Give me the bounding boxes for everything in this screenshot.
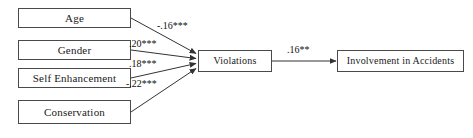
node-conservation-label: Conservation xyxy=(44,107,105,118)
node-gender[interactable]: Gender xyxy=(18,40,131,60)
node-violations[interactable]: Violations xyxy=(198,50,272,72)
edge-label-conservation-violations: -.22*** xyxy=(126,79,157,89)
edge-label-selfenhancement-violations: .18*** xyxy=(129,59,157,69)
edge-label-conservation-violations-text: -.22*** xyxy=(126,78,157,89)
node-gender-label: Gender xyxy=(58,45,92,56)
node-age-label: Age xyxy=(65,13,84,24)
edge-label-selfenhancement-violations-text: .18*** xyxy=(129,58,157,69)
node-self-enhancement[interactable]: Self Enhancement xyxy=(18,68,131,88)
edge-label-gender-violations-text: .20*** xyxy=(129,38,157,49)
edge-label-age-violations-text: -.16*** xyxy=(157,20,188,31)
node-involvement-in-accidents[interactable]: Involvement in Accidents xyxy=(337,50,464,72)
edge-label-age-violations: -.16*** xyxy=(157,21,188,31)
node-age[interactable]: Age xyxy=(18,8,131,28)
node-conservation[interactable]: Conservation xyxy=(18,100,131,124)
node-involvement-in-accidents-label: Involvement in Accidents xyxy=(347,56,455,66)
edge-label-violations-accidents: .16** xyxy=(287,45,310,55)
edge-conservation-violations xyxy=(131,69,196,113)
edge-label-gender-violations: .20*** xyxy=(129,39,157,49)
node-violations-label: Violations xyxy=(213,56,256,66)
node-self-enhancement-label: Self Enhancement xyxy=(33,73,117,84)
edge-label-violations-accidents-text: .16** xyxy=(287,44,310,55)
path-diagram-canvas: Age Gender Self Enhancement Conservation… xyxy=(0,0,473,138)
